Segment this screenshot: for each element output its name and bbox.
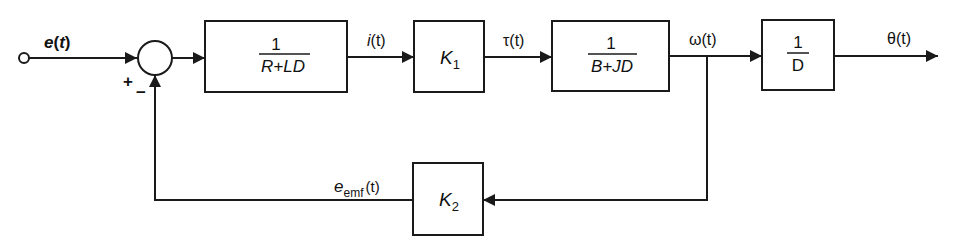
input-signal-label: e(t): [44, 33, 70, 52]
plus-sign: +: [123, 72, 133, 91]
block-mechanical: [552, 21, 669, 91]
input-terminal: [19, 53, 29, 63]
angle-label: θ(t): [887, 30, 911, 47]
summing-junction: [138, 41, 172, 75]
minus-sign: −: [136, 83, 146, 102]
block3-denominator: B+JD: [591, 57, 633, 76]
block1-numerator: 1: [271, 35, 280, 54]
block1-denominator: R+LD: [261, 57, 305, 76]
block4-numerator: 1: [793, 33, 802, 52]
motor-block-diagram: e(t) + − 1 R+LD i(t) K1 τ(t) 1 B+JD ω(t)…: [0, 0, 958, 252]
block-integrator: [762, 20, 834, 90]
back-emf-label: eemf(t): [334, 177, 380, 200]
speed-label: ω(t): [689, 31, 717, 48]
torque-label: τ(t): [503, 32, 524, 49]
current-label: i(t): [367, 32, 386, 49]
block3-numerator: 1: [606, 34, 615, 53]
block4-denominator: D: [792, 56, 804, 75]
